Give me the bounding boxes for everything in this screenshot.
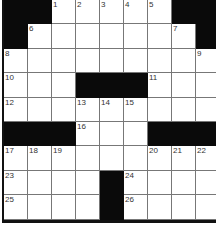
crossword-grid: 1234567891011121314151617181920212223242…	[2, 0, 216, 223]
crossword-cell[interactable]: 19	[52, 146, 76, 170]
crossword-cell[interactable]	[148, 195, 172, 219]
crossword-cell[interactable]: 11	[148, 73, 172, 97]
clue-number: 6	[29, 24, 33, 33]
block-cell	[4, 0, 28, 24]
crossword-cell[interactable]	[28, 49, 52, 73]
crossword-cell[interactable]	[28, 98, 52, 122]
crossword-cell[interactable]	[148, 24, 172, 48]
crossword-cell[interactable]: 8	[4, 49, 28, 73]
crossword-cell[interactable]: 15	[124, 98, 148, 122]
crossword-cell[interactable]	[124, 146, 148, 170]
crossword-cell[interactable]	[100, 146, 124, 170]
crossword-cell[interactable]	[52, 49, 76, 73]
crossword-cell[interactable]	[76, 146, 100, 170]
crossword-cell[interactable]: 3	[100, 0, 124, 24]
crossword-cell[interactable]	[52, 171, 76, 195]
block-cell	[52, 122, 76, 146]
crossword-cell[interactable]	[196, 73, 216, 97]
clue-number: 10	[5, 73, 14, 82]
crossword-cell[interactable]	[124, 122, 148, 146]
crossword-cell[interactable]	[52, 73, 76, 97]
clue-number: 17	[5, 146, 14, 155]
crossword-cell[interactable]	[28, 171, 52, 195]
crossword-cell[interactable]: 14	[100, 98, 124, 122]
clue-number: 18	[29, 146, 38, 155]
clue-number: 15	[125, 98, 134, 107]
crossword-cell[interactable]: 4	[124, 0, 148, 24]
crossword-cell[interactable]: 5	[148, 0, 172, 24]
clue-number: 16	[77, 122, 86, 131]
clue-number: 8	[5, 49, 9, 58]
clue-number: 21	[173, 146, 182, 155]
clue-number: 4	[125, 0, 129, 9]
block-cell	[4, 24, 28, 48]
crossword-cell[interactable]: 21	[172, 146, 196, 170]
crossword-cell[interactable]: 13	[76, 98, 100, 122]
crossword-cell[interactable]: 24	[124, 171, 148, 195]
crossword-cell[interactable]	[148, 171, 172, 195]
crossword-cell[interactable]	[148, 98, 172, 122]
crossword-cell[interactable]	[196, 195, 216, 219]
clue-number: 19	[53, 146, 62, 155]
crossword-cell[interactable]	[124, 24, 148, 48]
block-cell	[196, 24, 216, 48]
block-cell	[148, 122, 172, 146]
clue-number: 5	[149, 0, 153, 9]
crossword-cell[interactable]	[100, 122, 124, 146]
crossword-cell[interactable]	[100, 49, 124, 73]
crossword-cell[interactable]: 7	[172, 24, 196, 48]
crossword-cell[interactable]: 2	[76, 0, 100, 24]
crossword-cell[interactable]	[28, 73, 52, 97]
clue-number: 25	[5, 195, 14, 204]
crossword-cell[interactable]: 17	[4, 146, 28, 170]
crossword-cell[interactable]: 18	[28, 146, 52, 170]
clue-number: 9	[197, 49, 201, 58]
crossword-cell[interactable]	[28, 195, 52, 219]
crossword-cell[interactable]	[172, 195, 196, 219]
clue-number: 2	[77, 0, 81, 9]
crossword-cell[interactable]	[52, 24, 76, 48]
block-cell	[100, 171, 124, 195]
block-cell	[172, 122, 196, 146]
crossword-cell[interactable]	[172, 171, 196, 195]
crossword-cell[interactable]	[76, 49, 100, 73]
crossword-cell[interactable]	[196, 98, 216, 122]
crossword-cell[interactable]: 10	[4, 73, 28, 97]
clue-number: 11	[149, 73, 157, 82]
crossword-cell[interactable]	[148, 49, 172, 73]
clue-number: 26	[125, 195, 134, 204]
crossword-cell[interactable]: 1	[52, 0, 76, 24]
block-cell	[100, 195, 124, 219]
block-cell	[28, 122, 52, 146]
crossword-cell[interactable]	[172, 49, 196, 73]
block-cell	[100, 73, 124, 97]
crossword-cell[interactable]: 9	[196, 49, 216, 73]
clue-number: 20	[149, 146, 158, 155]
block-cell	[76, 73, 100, 97]
crossword-cell[interactable]	[76, 195, 100, 219]
crossword-cell[interactable]	[172, 73, 196, 97]
crossword-cell[interactable]	[124, 49, 148, 73]
crossword-cell[interactable]: 20	[148, 146, 172, 170]
crossword-cell[interactable]: 16	[76, 122, 100, 146]
crossword-cell[interactable]: 12	[4, 98, 28, 122]
crossword-cell[interactable]	[76, 171, 100, 195]
crossword-cell[interactable]: 23	[4, 171, 28, 195]
crossword-cell[interactable]: 6	[28, 24, 52, 48]
clue-number: 12	[5, 98, 14, 107]
crossword-cell[interactable]: 22	[196, 146, 216, 170]
crossword-cell[interactable]	[52, 195, 76, 219]
clue-number: 3	[101, 0, 105, 9]
crossword-cell[interactable]	[172, 98, 196, 122]
clue-number: 7	[173, 24, 177, 33]
block-cell	[196, 122, 216, 146]
crossword-cell[interactable]	[100, 24, 124, 48]
block-cell	[196, 0, 216, 24]
clue-number: 22	[197, 146, 206, 155]
crossword-cell[interactable]: 26	[124, 195, 148, 219]
crossword-cell[interactable]	[196, 171, 216, 195]
crossword-cell[interactable]: 25	[4, 195, 28, 219]
crossword-cell[interactable]	[76, 24, 100, 48]
crossword-cell[interactable]	[52, 98, 76, 122]
block-cell	[172, 0, 196, 24]
